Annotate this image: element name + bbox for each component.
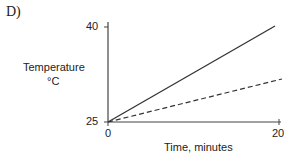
dashed-series-line — [108, 79, 282, 122]
y-axis-unit: °C — [47, 75, 59, 87]
x-tick-label-20: 20 — [272, 127, 284, 139]
y-tick-label-25: 25 — [86, 115, 98, 127]
y-axis-label: Temperature — [23, 61, 85, 73]
x-axis-label: Time, minutes — [164, 141, 233, 153]
solid-series-line — [108, 26, 275, 122]
line-chart — [0, 0, 290, 155]
y-tick-label-40: 40 — [86, 20, 98, 32]
x-tick-label-0: 0 — [105, 127, 111, 139]
